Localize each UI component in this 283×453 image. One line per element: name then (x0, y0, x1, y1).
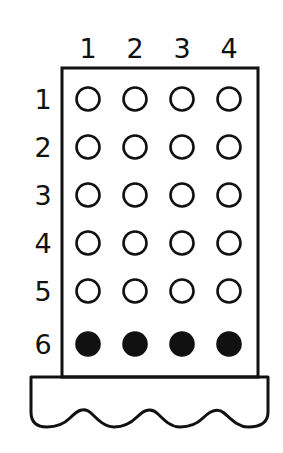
column-header-2: 2 (126, 33, 143, 64)
cell-r1-c1[interactable] (77, 88, 100, 111)
row-header-6: 6 (34, 329, 51, 360)
cell-r4-c1[interactable] (77, 232, 100, 255)
board-outline (62, 68, 258, 377)
cell-r5-c2[interactable] (124, 280, 147, 303)
row-header-3: 3 (34, 180, 51, 211)
cell-r3-c1[interactable] (77, 184, 100, 207)
cell-r6-c1[interactable] (77, 333, 100, 356)
cell-r5-c1[interactable] (77, 280, 100, 303)
cell-r1-c4[interactable] (218, 88, 241, 111)
cell-r3-c2[interactable] (124, 184, 147, 207)
cell-r6-c4[interactable] (218, 333, 241, 356)
cell-r4-c2[interactable] (124, 232, 147, 255)
row-header-4: 4 (34, 228, 51, 259)
base-plate (31, 377, 268, 427)
column-header-4: 4 (220, 33, 237, 64)
cell-r1-c3[interactable] (171, 88, 194, 111)
row-header-2: 2 (34, 132, 51, 163)
cell-r3-c4[interactable] (218, 184, 241, 207)
row-header-5: 5 (34, 276, 51, 307)
cell-r1-c2[interactable] (124, 88, 147, 111)
column-header-group: 1 2 3 4 (79, 33, 237, 64)
cell-r3-c3[interactable] (171, 184, 194, 207)
cell-r5-c4[interactable] (218, 280, 241, 303)
cell-r2-c2[interactable] (124, 136, 147, 159)
cell-r4-c4[interactable] (218, 232, 241, 255)
cell-r2-c4[interactable] (218, 136, 241, 159)
column-header-1: 1 (79, 33, 96, 64)
column-header-3: 3 (173, 33, 190, 64)
cell-r6-c3[interactable] (171, 333, 194, 356)
cell-r2-c3[interactable] (171, 136, 194, 159)
cells-layer (77, 88, 241, 356)
row-header-group: 1 2 3 4 5 6 (34, 84, 51, 360)
row-header-1: 1 (34, 84, 51, 115)
cell-r6-c2[interactable] (124, 333, 147, 356)
figure-root: 1 2 3 4 1 2 3 4 5 6 (0, 0, 283, 453)
cell-r4-c3[interactable] (171, 232, 194, 255)
cell-r2-c1[interactable] (77, 136, 100, 159)
cell-r5-c3[interactable] (171, 280, 194, 303)
grid-diagram: 1 2 3 4 1 2 3 4 5 6 (0, 0, 283, 453)
